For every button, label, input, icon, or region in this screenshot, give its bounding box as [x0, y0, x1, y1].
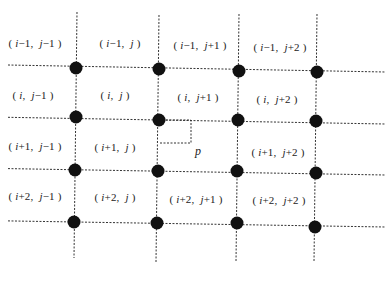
cell-label: ( i+1, j−1 ): [8, 140, 61, 152]
grid-node: [152, 165, 165, 178]
grid-node: [233, 65, 246, 78]
cell-label: ( i+1, j ): [94, 141, 135, 153]
cell-label: ( i−1, j ): [99, 37, 140, 49]
grid-node: [153, 63, 166, 76]
cell-label: ( i−1, j−1 ): [8, 37, 61, 49]
cell-label: ( i−1, j+1 ): [173, 39, 226, 51]
cell-label: ( i, j+1 ): [177, 91, 218, 103]
cell-label: ( i+2, j+1 ): [169, 193, 222, 205]
grid-node: [153, 114, 166, 127]
grid-node: [68, 216, 81, 229]
cell-label: ( i, j ): [100, 89, 129, 101]
cell-label: ( i+2, j−1 ): [8, 190, 61, 202]
grid-node: [310, 167, 323, 180]
grid-node: [70, 62, 83, 75]
horizontal-line: [8, 117, 385, 124]
grid-node: [309, 221, 322, 234]
grid-node: [311, 66, 324, 79]
grid-node: [151, 217, 164, 230]
cell-label: ( i+2, j ): [94, 191, 135, 203]
horizontal-line: [8, 65, 385, 72]
grid-node: [231, 217, 244, 230]
grid-node: [310, 115, 323, 128]
grid-node: [69, 164, 82, 177]
cell-label: ( i+1, j+2 ): [251, 146, 304, 158]
grid-node: [232, 114, 245, 127]
cell-label: ( i, j+2 ): [256, 93, 297, 105]
point-p-label: p: [195, 144, 201, 159]
horizontal-line: [8, 221, 385, 227]
cell-label: ( i+2, j+2 ): [252, 194, 305, 206]
grid-node: [70, 111, 83, 124]
cell-label: ( i, j−1 ): [12, 89, 53, 101]
grid-node: [231, 165, 244, 178]
cell-label: ( i−1, j+2 ): [253, 41, 306, 53]
horizontal-line: [8, 169, 385, 175]
